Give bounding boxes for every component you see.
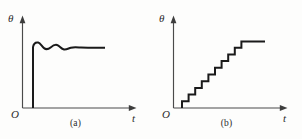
caption-b: (b) — [151, 118, 302, 128]
step-response-curve-a — [33, 43, 105, 108]
chart-panel-b: θ t O (b) — [151, 0, 302, 139]
staircase-curve-b — [182, 42, 265, 108]
caption-a: (a) — [0, 118, 151, 128]
y-axis-arrowhead-a — [20, 16, 26, 24]
y-axis-label-a: θ — [8, 12, 14, 24]
figure-container: θ t O (a) θ t O (b) — [0, 0, 302, 139]
x-axis-arrowhead-b — [280, 105, 288, 111]
y-axis-label-b: θ — [159, 12, 165, 24]
chart-panel-a: θ t O (a) — [0, 0, 151, 139]
x-axis-arrowhead-a — [129, 105, 137, 111]
y-axis-arrowhead-b — [171, 16, 177, 24]
